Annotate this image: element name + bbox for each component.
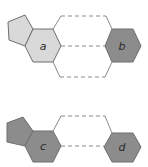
label-b: b bbox=[119, 40, 126, 53]
diagram-canvas: a b c d bbox=[0, 0, 148, 167]
hexagon-a: a bbox=[25, 29, 61, 62]
hexagon-b: b bbox=[105, 29, 141, 62]
bottom-group: c d bbox=[7, 116, 141, 162]
connector-a-b-upper-right bbox=[106, 16, 112, 29]
label-a: a bbox=[40, 40, 47, 53]
connector-c-d-upper-right bbox=[105, 116, 112, 133]
connector-a-b-upper-left bbox=[53, 16, 61, 29]
connector-a-b-lower-left bbox=[53, 62, 60, 77]
hexagon-c: c bbox=[25, 131, 61, 162]
top-connectors bbox=[53, 16, 112, 77]
hexagon-d: d bbox=[104, 133, 141, 162]
bottom-connectors bbox=[53, 116, 112, 146]
label-d: d bbox=[119, 141, 127, 154]
connector-a-b-lower-right bbox=[105, 62, 112, 77]
connector-c-d-upper-left bbox=[53, 116, 61, 131]
label-c: c bbox=[40, 140, 46, 153]
top-group: a b bbox=[8, 15, 141, 77]
